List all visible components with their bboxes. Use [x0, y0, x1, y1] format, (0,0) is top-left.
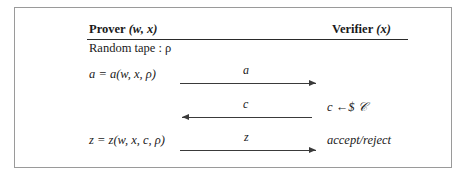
arrow-label-c: c — [243, 97, 248, 112]
message-arrow-c — [182, 112, 312, 123]
arrow-line — [182, 117, 312, 118]
prover-role-label: Prover — [89, 22, 126, 36]
prover-column-header: Prover (w, x) — [89, 22, 157, 37]
arrow-label-z: z — [244, 130, 249, 145]
prover-first-message-expression: a = a(w, x, ρ) — [89, 67, 156, 82]
arrow-line — [180, 150, 316, 151]
message-arrow-a — [180, 78, 316, 89]
message-arrow-z — [180, 145, 316, 156]
arrow-line — [180, 83, 316, 84]
prover-args-label: (w, x) — [129, 22, 158, 36]
arrowhead-right-icon — [309, 147, 316, 153]
verifier-role-label: Verifier — [332, 22, 373, 36]
arrow-label-a: a — [243, 63, 249, 78]
prover-response-expression: z = z(w, x, c, ρ) — [89, 133, 165, 148]
protocol-diagram: Prover (w, x) Verifier (x) Random tape :… — [0, 0, 467, 177]
verifier-column-header: Verifier (x) — [332, 22, 391, 37]
verifier-args-label: (x) — [376, 22, 391, 36]
verifier-challenge-sampling: c ←$ 𝒞 — [327, 100, 367, 115]
diagram-frame: Prover (w, x) Verifier (x) Random tape :… — [14, 7, 452, 168]
verifier-decision-label: accept/reject — [327, 133, 391, 148]
arrowhead-left-icon — [182, 114, 189, 120]
arrowhead-right-icon — [309, 80, 316, 86]
header-divider — [87, 39, 408, 40]
random-tape-label: Random tape : ρ — [89, 41, 171, 56]
